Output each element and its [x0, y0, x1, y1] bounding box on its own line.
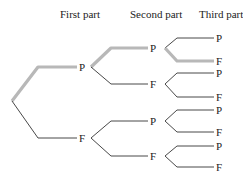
node-3-FFF: F [216, 161, 222, 173]
edge-PP-to-PPP [165, 38, 214, 48]
header-third-part: Third part [199, 8, 243, 20]
node-3-FPP: P [216, 104, 222, 116]
edge-F-to-FP [91, 121, 148, 138]
edge-P-to-PP [91, 48, 148, 67]
edge-P-to-PF [91, 67, 148, 84]
edge-FP-to-FPP [165, 110, 214, 121]
node-3-PPP: P [216, 32, 222, 44]
node-3-PPF: F [216, 55, 222, 67]
edge-FF-to-FFF [165, 156, 214, 167]
edge-root-to-F [12, 101, 77, 138]
node-3-FPF: F [216, 126, 222, 138]
edge-PF-to-PFP [165, 73, 214, 84]
tree-diagram: First part Second part Third part P F P … [0, 0, 243, 182]
node-3-FFP: P [216, 140, 222, 152]
node-3-PFP: P [216, 67, 222, 79]
node-2-FF: F [150, 150, 156, 162]
edge-FF-to-FFP [165, 146, 214, 156]
node-3-PFF: F [216, 91, 222, 103]
node-1-P: P [79, 61, 85, 73]
edge-PP-to-PPF [165, 48, 214, 61]
node-1-F: F [79, 132, 85, 144]
node-2-PP: P [150, 42, 156, 54]
edge-F-to-FF [91, 138, 148, 156]
node-2-FP: P [150, 115, 156, 127]
header-second-part: Second part [130, 8, 182, 20]
edge-root-to-P [12, 67, 77, 101]
node-2-PF: F [150, 78, 156, 90]
header-first-part: First part [60, 8, 100, 20]
edge-PF-to-PFF [165, 84, 214, 97]
edge-FP-to-FPF [165, 121, 214, 132]
